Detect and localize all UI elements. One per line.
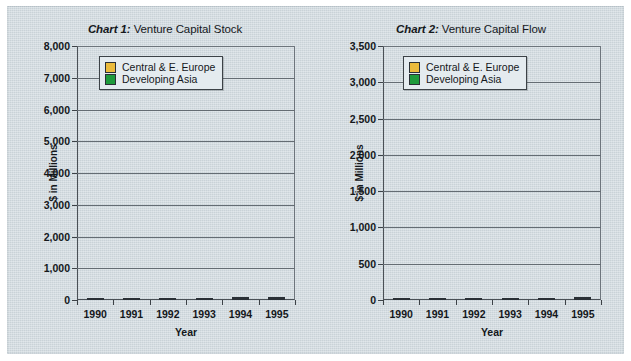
y-tick-label: 2,500	[350, 113, 376, 125]
y-tick-label: 1,000	[350, 221, 376, 233]
chart-1-y-axis-title: $ in Millions	[48, 144, 59, 201]
x-tick-label: 1992	[462, 308, 485, 320]
legend-entry-central-e-europe: Central & E. Europe	[105, 61, 215, 73]
bar-segment	[268, 298, 285, 300]
legend-entry-developing-asia: Developing Asia	[105, 73, 215, 85]
chart-2-container: Chart 2: Venture Capital Flow 05001,0001…	[321, 6, 621, 354]
scanned-page-panel: Chart 1: Venture Capital Stock 01,0002,0…	[7, 6, 624, 354]
y-tick-label: 500	[358, 258, 376, 270]
chart-1-legend: Central & E. Europe Developing Asia	[99, 56, 223, 90]
y-tick-label: 0	[64, 294, 70, 306]
y-tick-label: 3,500	[350, 40, 376, 52]
bar-segment	[538, 298, 555, 300]
bar-stack	[429, 298, 446, 300]
x-tick-mark	[222, 300, 223, 305]
chart-1-x-axis-title: Year	[77, 326, 295, 338]
legend-label-developing-asia: Developing Asia	[426, 73, 501, 85]
x-tick-mark	[456, 300, 457, 305]
bar-group-1995	[268, 46, 285, 300]
bar-segment	[429, 298, 446, 300]
legend-entry-central-e-europe: Central & E. Europe	[409, 61, 519, 73]
bar-stack	[268, 297, 285, 300]
y-tick-label: 1,000	[44, 262, 70, 274]
bar-stack	[159, 298, 176, 300]
x-tick-label: 1991	[120, 308, 143, 320]
x-tick-mark	[565, 300, 566, 305]
chart-2-plot-area: 05001,0001,5002,0002,5003,0003,500 19901…	[383, 46, 601, 300]
legend-entry-developing-asia: Developing Asia	[409, 73, 519, 85]
chart-1-container: Chart 1: Venture Capital Stock 01,0002,0…	[15, 6, 315, 354]
legend-label-developing-asia: Developing Asia	[122, 73, 197, 85]
chart-1-plot-area: 01,0002,0003,0004,0005,0006,0007,0008,00…	[77, 46, 295, 300]
chart-1-title-label: Chart 1:	[88, 23, 131, 35]
legend-swatch-green-icon	[409, 74, 420, 85]
chart-1-title-rest: Venture Capital Stock	[131, 23, 243, 35]
bar-stack	[465, 298, 482, 300]
bar-segment	[574, 298, 591, 300]
x-tick-label: 1991	[426, 308, 449, 320]
x-tick-mark	[419, 300, 420, 305]
bar-stack	[232, 297, 249, 300]
x-tick-label: 1990	[389, 308, 412, 320]
bar-segment	[123, 298, 140, 300]
y-tick-label: 3,000	[350, 76, 376, 88]
chart-2-title: Chart 2: Venture Capital Flow	[321, 23, 621, 35]
chart-2-title-rest: Venture Capital Flow	[439, 23, 546, 35]
x-tick-mark	[113, 300, 114, 305]
bar-stack	[574, 297, 591, 300]
bar-group-1994	[538, 46, 555, 300]
x-tick-label: 1993	[498, 308, 521, 320]
legend-label-central-e-europe: Central & E. Europe	[122, 61, 215, 73]
x-tick-mark	[601, 300, 602, 305]
y-tick-label: 7,000	[44, 72, 70, 84]
x-tick-label: 1994	[229, 308, 252, 320]
legend-swatch-yellow-icon	[409, 62, 420, 73]
bar-segment	[393, 298, 410, 300]
x-tick-label: 1995	[571, 308, 594, 320]
bar-segment	[159, 298, 176, 300]
bar-segment	[196, 298, 213, 300]
x-tick-label: 1990	[83, 308, 106, 320]
x-tick-mark	[492, 300, 493, 305]
legend-label-central-e-europe: Central & E. Europe	[426, 61, 519, 73]
x-tick-label: 1992	[156, 308, 179, 320]
legend-swatch-yellow-icon	[105, 62, 116, 73]
y-tick-label: 6,000	[44, 104, 70, 116]
y-tick-label: 8,000	[44, 40, 70, 52]
bar-group-1994	[232, 46, 249, 300]
bar-segment	[502, 298, 519, 300]
chart-2-title-label: Chart 2:	[396, 23, 439, 35]
x-tick-mark	[295, 300, 296, 305]
x-tick-label: 1994	[535, 308, 558, 320]
bar-segment	[465, 298, 482, 300]
bar-stack	[87, 298, 104, 300]
bar-stack	[196, 298, 213, 300]
bar-segment	[87, 298, 104, 300]
x-tick-mark	[186, 300, 187, 305]
bar-group-1995	[574, 46, 591, 300]
x-tick-mark	[150, 300, 151, 305]
bar-segment	[232, 298, 249, 300]
bar-stack	[123, 298, 140, 300]
y-tick-label: 0	[370, 294, 376, 306]
x-tick-mark	[259, 300, 260, 305]
x-tick-mark	[77, 300, 78, 305]
chart-1-title: Chart 1: Venture Capital Stock	[15, 23, 315, 35]
y-tick-label: 2,000	[44, 231, 70, 243]
x-tick-mark	[383, 300, 384, 305]
bar-stack	[538, 298, 555, 300]
chart-2-legend: Central & E. Europe Developing Asia	[403, 56, 527, 90]
x-tick-mark	[528, 300, 529, 305]
x-tick-label: 1993	[192, 308, 215, 320]
chart-2-x-axis-title: Year	[383, 326, 601, 338]
chart-2-y-axis-title: $ in Millions	[354, 144, 365, 201]
bar-stack	[502, 298, 519, 300]
bar-stack	[393, 298, 410, 300]
x-tick-label: 1995	[265, 308, 288, 320]
legend-swatch-green-icon	[105, 74, 116, 85]
